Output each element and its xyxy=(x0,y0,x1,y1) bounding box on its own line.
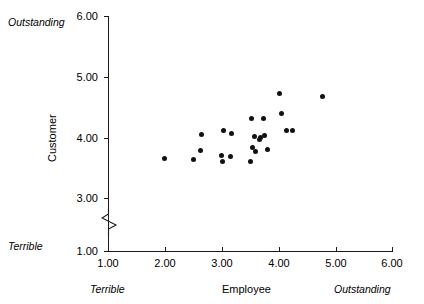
data-point xyxy=(279,111,284,116)
data-point xyxy=(265,147,270,152)
data-point xyxy=(221,128,226,133)
data-point xyxy=(229,131,234,136)
scatter-plot-figure: 6.005.004.003.001.00 1.002.003.004.005.0… xyxy=(0,0,424,304)
data-point xyxy=(162,156,167,161)
data-point xyxy=(228,154,233,159)
data-point xyxy=(249,116,254,121)
data-point xyxy=(320,94,325,99)
data-point xyxy=(220,159,225,164)
data-point xyxy=(199,132,204,137)
data-point xyxy=(248,159,253,164)
data-point xyxy=(290,128,295,133)
data-point xyxy=(262,133,267,138)
data-point xyxy=(284,128,289,133)
data-point xyxy=(198,148,203,153)
data-point xyxy=(253,149,258,154)
data-point xyxy=(277,91,282,96)
data-point xyxy=(191,157,196,162)
data-point xyxy=(219,153,224,158)
data-point xyxy=(261,116,266,121)
plot-area xyxy=(0,0,424,304)
